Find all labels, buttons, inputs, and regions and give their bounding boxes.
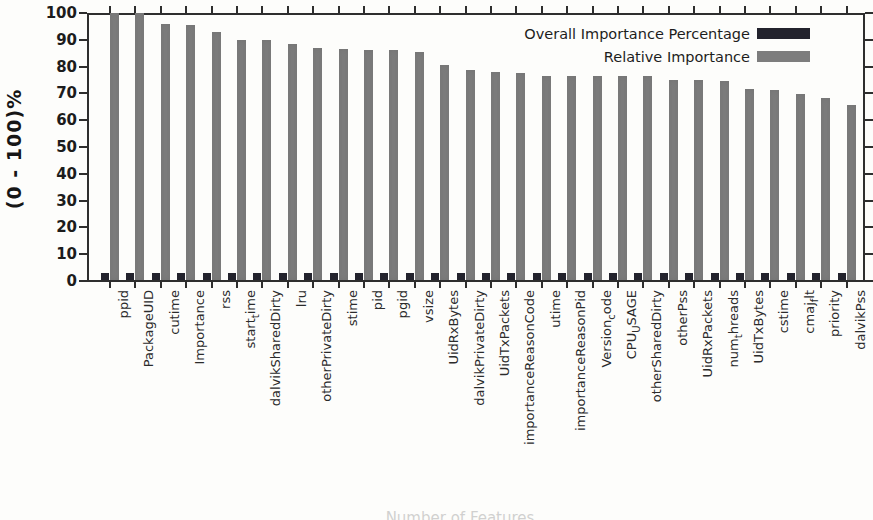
category-label-utime: utime xyxy=(549,290,563,475)
bar-overall-importance-percentage xyxy=(279,273,287,280)
category-label-UidTxBytes: UidTxBytes xyxy=(752,290,766,475)
x-tick-bottom xyxy=(642,282,644,288)
x-tick-bottom xyxy=(312,282,314,288)
bar-relative-importance xyxy=(567,76,576,280)
bar-relative-importance xyxy=(237,40,246,280)
y-tick-right xyxy=(865,200,873,202)
bar-relative-importance xyxy=(440,65,449,280)
category-label-UidRxBytes: UidRxBytes xyxy=(447,290,461,475)
category-label-dalvikPss: dalvikPss xyxy=(854,290,868,475)
bar-overall-importance-percentage xyxy=(507,273,515,280)
x-tick-bottom xyxy=(211,282,213,288)
bar-relative-importance xyxy=(389,50,398,280)
bar-relative-importance xyxy=(618,76,627,280)
x-tick-bottom xyxy=(185,282,187,288)
x-tick-top xyxy=(134,6,136,13)
bar-relative-importance xyxy=(694,80,703,280)
category-label-PackageUID: PackageUID xyxy=(142,290,156,475)
category-label-dalvikSharedDirty: dalvikSharedDirty xyxy=(269,290,283,475)
y-tick-label: 100 xyxy=(37,6,77,21)
category-label-Importance: Importance xyxy=(193,290,207,475)
y-tick-left xyxy=(79,146,87,148)
bar-overall-importance-percentage xyxy=(406,273,414,280)
x-tick-top xyxy=(566,6,568,13)
bar-overall-importance-percentage xyxy=(685,273,693,280)
y-tick-label: 20 xyxy=(37,220,77,235)
y-tick-right xyxy=(865,12,873,14)
y-tick-left xyxy=(79,119,87,121)
bar-overall-importance-percentage xyxy=(253,273,261,280)
category-label-importanceReasonCode: importanceReasonCode xyxy=(523,290,537,475)
category-label-stime: stime xyxy=(346,290,360,475)
x-tick-top xyxy=(363,6,365,13)
x-tick-bottom xyxy=(769,282,771,288)
bar-overall-importance-percentage xyxy=(126,273,134,280)
x-tick-top xyxy=(668,6,670,13)
x-tick-top xyxy=(592,6,594,13)
subscript: f xyxy=(808,299,819,303)
bar-relative-importance xyxy=(669,80,678,280)
category-label-start_time: starttime xyxy=(244,290,258,475)
x-tick-top xyxy=(160,6,162,13)
bar-overall-importance-percentage xyxy=(812,273,820,280)
y-tick-right xyxy=(865,280,873,282)
x-tick-bottom xyxy=(439,282,441,288)
bar-relative-importance xyxy=(796,94,805,280)
bar-overall-importance-percentage xyxy=(431,273,439,280)
bar-relative-importance xyxy=(847,105,856,280)
y-tick-right xyxy=(865,226,873,228)
x-tick-top xyxy=(744,6,746,13)
x-axis-caption-partial: Number of Features xyxy=(375,509,545,520)
y-tick-label: 0 xyxy=(37,274,77,289)
bar-overall-importance-percentage xyxy=(838,273,846,280)
category-label-Version_code: Versioncode xyxy=(600,290,614,475)
bar-overall-importance-percentage xyxy=(330,273,338,280)
legend-label-relative-importance: Relative Importance xyxy=(390,49,750,66)
y-tick-left xyxy=(79,12,87,14)
y-tick-label: 80 xyxy=(37,60,77,75)
category-label-otherSharedDirty: otherSharedDirty xyxy=(650,290,664,475)
x-tick-bottom xyxy=(719,282,721,288)
bar-overall-importance-percentage xyxy=(101,273,109,280)
y-tick-right xyxy=(865,253,873,255)
x-tick-top xyxy=(642,6,644,13)
x-tick-top xyxy=(769,6,771,13)
bar-relative-importance xyxy=(745,89,754,280)
bar-overall-importance-percentage xyxy=(711,273,719,280)
y-tick-label: 90 xyxy=(37,33,77,48)
x-tick-bottom xyxy=(287,282,289,288)
x-tick-top xyxy=(338,6,340,13)
x-tick-bottom xyxy=(515,282,517,288)
x-tick-bottom xyxy=(846,282,848,288)
x-tick-top xyxy=(617,6,619,13)
bar-relative-importance xyxy=(466,70,475,280)
bar-overall-importance-percentage xyxy=(736,273,744,280)
x-tick-bottom xyxy=(566,282,568,288)
x-tick-top xyxy=(541,6,543,13)
bar-overall-importance-percentage xyxy=(177,273,185,280)
y-tick-label: 60 xyxy=(37,113,77,128)
x-tick-bottom xyxy=(414,282,416,288)
x-tick-bottom xyxy=(795,282,797,288)
x-tick-bottom xyxy=(744,282,746,288)
x-tick-top xyxy=(261,6,263,13)
category-label-pgid: pgid xyxy=(396,290,410,475)
y-tick-label: 70 xyxy=(37,86,77,101)
bar-relative-importance xyxy=(770,90,779,280)
x-tick-bottom xyxy=(160,282,162,288)
bar-overall-importance-percentage xyxy=(761,273,769,280)
x-tick-top xyxy=(719,6,721,13)
bar-relative-importance xyxy=(262,40,271,280)
bar-relative-importance xyxy=(593,76,602,280)
bar-relative-importance xyxy=(186,25,195,280)
bar-overall-importance-percentage xyxy=(558,273,566,280)
x-tick-top xyxy=(312,6,314,13)
y-tick-label: 40 xyxy=(37,167,77,182)
x-tick-top xyxy=(465,6,467,13)
y-tick-label: 30 xyxy=(37,194,77,209)
bar-overall-importance-percentage xyxy=(609,273,617,280)
legend-swatch-relative-importance xyxy=(757,51,810,62)
y-tick-label: 50 xyxy=(37,140,77,155)
bar-relative-importance xyxy=(110,13,119,280)
x-tick-top xyxy=(236,6,238,13)
